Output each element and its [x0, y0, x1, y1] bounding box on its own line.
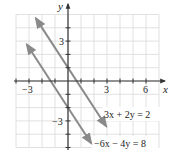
x-tick-label-6: 6: [143, 84, 148, 95]
y-axis-label: y: [57, 0, 63, 12]
x-axis-label: x: [162, 83, 168, 95]
line-neg6x-minus-4y-eq-8: [27, 45, 91, 143]
eq1-label: 3x + 2y = 2: [104, 109, 150, 120]
y-tick-label-3: 3: [59, 36, 64, 47]
line-3x-plus-2y-eq-2: [36, 19, 106, 126]
y-tick-label-neg3: −3: [52, 116, 63, 127]
x-tick-label-neg3: −3: [22, 84, 33, 95]
coordinate-plane-chart: x y −3 3 6 3 −3 3x + 2y = 2 −6x − 4y = 8: [0, 0, 179, 164]
x-tick-label-3: 3: [104, 84, 109, 95]
eq2-label: −6x − 4y = 8: [94, 138, 146, 149]
